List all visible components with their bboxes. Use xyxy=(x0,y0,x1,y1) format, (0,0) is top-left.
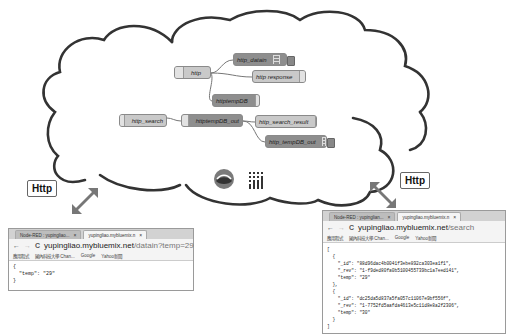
browser-toolbar: ← → C yupingliao.mybluemix.net/search xyxy=(323,221,505,233)
tab-node-red[interactable]: Node-RED : yupingliao...× xyxy=(15,230,81,239)
address-bar[interactable]: yupingliao.mybluemix.net/search xyxy=(358,223,474,232)
back-icon[interactable]: ← xyxy=(327,224,334,231)
node-label: http_search xyxy=(129,118,166,124)
bookmark-apps[interactable]: 應用程式 xyxy=(327,235,343,241)
node-label: http_search_result xyxy=(256,119,311,125)
tab-datain[interactable]: yupingliao.mybluemix.n× xyxy=(83,230,147,239)
json-response: { "temp": "29" } xyxy=(9,261,193,288)
database-icon xyxy=(182,115,189,126)
bookmark-chan[interactable]: 國內科技大學 Chan... xyxy=(35,253,75,259)
close-icon[interactable]: × xyxy=(74,232,77,238)
debug-toggle-icon[interactable] xyxy=(287,56,295,66)
ibm-iot-logo-icon xyxy=(249,172,266,189)
node-label: httptempDB xyxy=(213,98,251,104)
bookmark-google[interactable]: Google xyxy=(395,235,410,240)
node-http-datain[interactable]: http_datain xyxy=(233,53,287,66)
http-bubble-right: Http xyxy=(400,172,430,189)
database-icon xyxy=(255,95,259,106)
globe-icon xyxy=(299,71,305,82)
node-httptempdb[interactable]: httptempDB xyxy=(212,94,260,107)
bookmark-google[interactable]: Google xyxy=(81,253,96,258)
url-path: /search xyxy=(448,223,474,232)
tab-search[interactable]: yupingliao.mybluemix.n× xyxy=(397,212,461,221)
forward-icon[interactable]: → xyxy=(338,224,345,231)
bookmark-apps[interactable]: 應用程式 xyxy=(13,253,29,259)
url-host: yupingliao.mybluemix.net xyxy=(44,241,134,250)
globe-icon xyxy=(120,115,125,126)
bookmarks-bar: 應用程式 國內科技大學 Chan... Google Yahoo新聞 xyxy=(323,233,505,243)
bookmark-chan[interactable]: 國內科技大學 Chan... xyxy=(349,235,389,241)
node-label: http_datain xyxy=(234,57,270,63)
node-http-search[interactable]: http_search xyxy=(119,114,167,127)
reload-icon[interactable]: C xyxy=(349,224,354,231)
globe-icon xyxy=(315,116,316,127)
url-path: /datain?temp=29 xyxy=(134,241,194,250)
reload-icon[interactable]: C xyxy=(35,242,40,249)
node-http-response[interactable]: http response xyxy=(252,70,306,83)
close-icon[interactable]: × xyxy=(453,214,456,220)
bookmark-yahoo[interactable]: Yahoo新聞 xyxy=(101,253,122,259)
node-label: http response xyxy=(253,74,295,80)
node-label: http xyxy=(188,70,204,76)
close-icon[interactable]: × xyxy=(388,214,391,220)
forward-icon[interactable]: → xyxy=(24,242,31,249)
tab-strip: Node-RED : yupinglian...× yupingliao.myb… xyxy=(323,211,505,221)
node-http-search-result[interactable]: http_search_result xyxy=(255,115,317,128)
node-label: httptempDB_out xyxy=(193,118,242,124)
node-http-tempdb-out[interactable]: http_tempDB_out xyxy=(265,135,327,148)
node-http[interactable]: http xyxy=(174,66,211,79)
url-host: yupingliao.mybluemix.net xyxy=(358,223,448,232)
tab-node-red[interactable]: Node-RED : yupinglian...× xyxy=(329,212,395,221)
lines-icon xyxy=(273,55,280,64)
browser-window-search: Node-RED : yupinglian...× yupingliao.myb… xyxy=(322,210,506,334)
address-bar[interactable]: yupingliao.mybluemix.net/datain?temp=29 xyxy=(44,241,194,250)
bookmark-yahoo[interactable]: Yahoo新聞 xyxy=(415,235,436,241)
node-label: http_tempDB_out xyxy=(266,139,319,145)
double-arrow-icon xyxy=(70,188,100,216)
bookmarks-bar: 應用程式 國內科技大學 Chan... Google Yahoo新聞 xyxy=(9,251,193,261)
globe-icon xyxy=(175,67,184,78)
lines-icon xyxy=(322,137,326,146)
http-bubble-left: Http xyxy=(27,180,57,197)
browser-toolbar: ← → C yupingliao.mybluemix.net/datain?te… xyxy=(9,239,193,251)
debug-toggle-icon[interactable] xyxy=(327,138,335,148)
cloudant-logo-icon xyxy=(213,168,235,190)
close-icon[interactable]: × xyxy=(139,232,142,238)
node-httptempdb-out[interactable]: httptempDB_out xyxy=(181,114,243,127)
back-icon[interactable]: ← xyxy=(13,242,20,249)
json-response: [ { "_id": "88d96dac4b0041f3ebe892ca303e… xyxy=(323,243,505,333)
double-arrow-icon xyxy=(368,182,398,210)
browser-window-datain: Node-RED : yupingliao...× yupingliao.myb… xyxy=(8,228,194,291)
tab-strip: Node-RED : yupingliao...× yupingliao.myb… xyxy=(9,229,193,239)
